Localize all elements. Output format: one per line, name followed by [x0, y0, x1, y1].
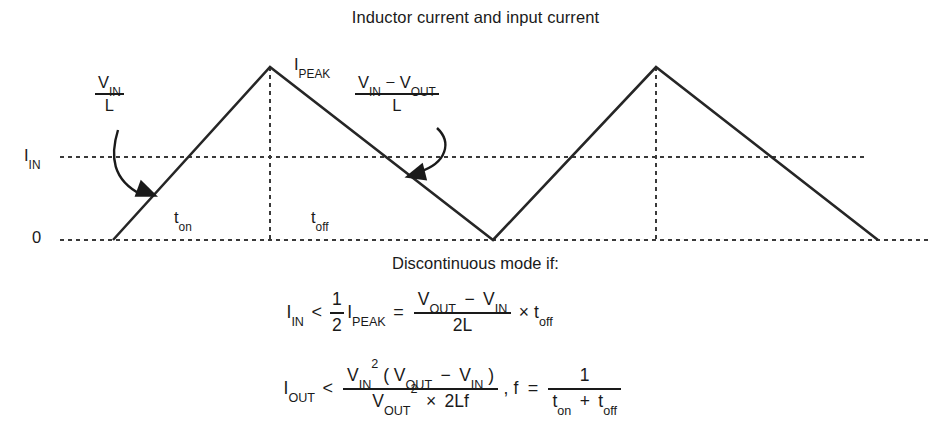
eq2-frequency-symbol: f [510, 378, 522, 399]
equation-iout-condition: IOUT < VIN2 ( VOUT − VIN ) VOUT2 × 2Lf ,… [282, 366, 625, 411]
page-title: Inductor current and input current [0, 8, 951, 27]
eq1-times: × [515, 302, 532, 323]
discontinuous-mode-caption: Discontinuous mode if: [0, 254, 951, 273]
interval-label-ton: ton [174, 208, 192, 227]
fraction-bar [548, 388, 621, 390]
inductor-current-waveform [113, 67, 878, 240]
eq2-frequency-numerator: 1 [576, 366, 594, 386]
slope-rising-numerator: VIN [95, 74, 124, 92]
slope-falling-numerator: VIN − VOUT [355, 74, 439, 92]
axis-label-ipeak: IPEAK [294, 55, 330, 74]
eq1-fraction-denominator: 2L [449, 316, 476, 336]
eq1-one-half: 1 2 [330, 290, 344, 335]
slope-label-falling: VIN − VOUT L [355, 74, 439, 115]
eq2-fraction-numerator: VIN2 ( VOUT − VIN ) [343, 366, 498, 386]
equation-iin-condition: IIN < 1 2 IPEAK = VOUT − VIN 2L × toff [285, 290, 554, 335]
eq2-comma: , [502, 378, 510, 399]
axis-label-iin: IIN [24, 146, 40, 165]
eq1-toff: toff [533, 302, 555, 323]
diagram-canvas: Inductor current and input current IIN 0… [0, 0, 951, 448]
eq2-frequency-denominator: ton + toff [548, 392, 621, 412]
eq1-fraction-numerator: VOUT − VIN [414, 290, 512, 310]
eq1-lhs: IIN [285, 302, 305, 323]
eq2-lhs: IOUT [282, 378, 316, 399]
eq1-ipeak: IPEAK [346, 302, 387, 323]
eq2-main-fraction: VIN2 ( VOUT − VIN ) VOUT2 × 2Lf [343, 366, 498, 411]
axis-label-zero: 0 [32, 228, 41, 247]
eq2-less-than: < [316, 378, 339, 399]
slope-label-rising: VIN L [95, 74, 124, 115]
eq1-fraction: VOUT − VIN 2L [414, 290, 512, 335]
eq2-fraction-denominator: VOUT2 × 2Lf [368, 392, 473, 412]
rising-slope-arrow [114, 130, 142, 195]
eq2-frequency-fraction: 1 ton + toff [548, 366, 621, 411]
fraction-bar [330, 312, 344, 314]
interval-label-toff: toff [311, 208, 329, 227]
eq1-equals: = [387, 302, 410, 323]
eq1-less-than: < [305, 302, 328, 323]
slope-falling-denominator: L [355, 96, 439, 114]
slope-rising-denominator: L [95, 96, 124, 114]
eq2-equals: = [522, 378, 545, 399]
